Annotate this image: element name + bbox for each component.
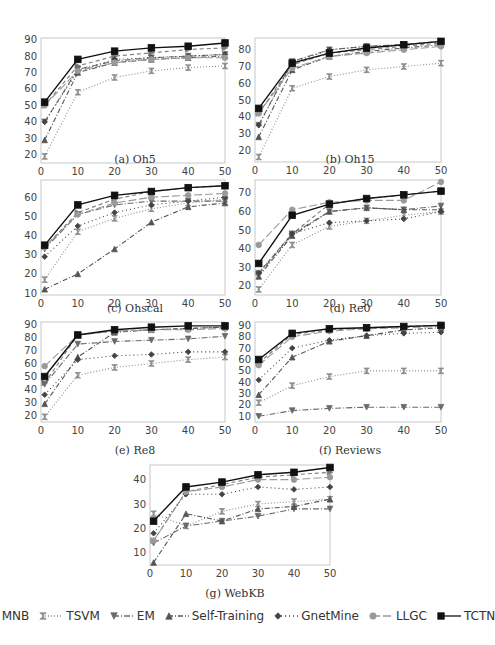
caption-oh5: (a) Oh5 [40, 153, 230, 166]
y-tick-label: 70 [24, 345, 37, 356]
x-tick-label: 40 [182, 166, 195, 177]
legend-label: GnetMine [301, 609, 359, 623]
x-tick-label: 0 [147, 568, 153, 579]
line-chart-svg: 1020304001020304050 [110, 465, 360, 590]
y-tick-label: 40 [133, 474, 146, 485]
line-chart-svg: 2030405060708001020304050 [233, 28, 469, 153]
line-chart-svg: 10203040506070809001020304050 [233, 322, 469, 447]
y-tick-label: 50 [238, 365, 251, 376]
legend-item-gnetmine: GnetMine [273, 609, 359, 623]
caption-ohscal: (c) Ohscal [40, 302, 230, 315]
x-tick-label: 20 [323, 425, 336, 436]
legend-label: EM [137, 609, 155, 623]
x-tick-label: 30 [252, 568, 265, 579]
y-tick-label: 70 [24, 67, 37, 78]
legend-item-self-training: Self-Training [164, 609, 264, 623]
x-tick-label: 10 [71, 166, 84, 177]
caption-re8: (e) Re8 [40, 444, 230, 457]
y-tick-label: 80 [238, 44, 251, 55]
y-tick-label: 50 [24, 100, 37, 111]
x-tick-label: 20 [108, 166, 121, 177]
x-tick-label: 40 [397, 165, 410, 176]
chart-panel-reviews: 10203040506070809001020304050 [233, 322, 469, 447]
caption-webkb: (g) WebKB [160, 587, 310, 600]
y-tick-label: 80 [24, 332, 37, 343]
y-tick-label: 40 [238, 243, 251, 254]
legend-item-mnb: MNB [0, 609, 29, 623]
x-tick-label: 0 [252, 165, 258, 176]
x-tick-label: 50 [435, 425, 448, 436]
y-tick-label: 50 [24, 371, 37, 382]
x-tick-label: 20 [323, 165, 336, 176]
legend-item-em: EM [109, 609, 155, 623]
y-tick-label: 20 [238, 399, 251, 410]
y-tick-label: 60 [238, 354, 251, 365]
x-tick-label: 10 [71, 425, 84, 436]
caption-oh15: (b) Oh15 [255, 153, 445, 166]
y-tick-label: 20 [238, 145, 251, 156]
y-tick-label: 50 [238, 225, 251, 236]
x-tick-label: 30 [145, 166, 158, 177]
line-chart-svg: 203040506070809001020304050 [0, 28, 230, 153]
y-tick-label: 70 [238, 343, 251, 354]
x-tick-label: 50 [219, 166, 232, 177]
chart-panel-oh15: 2030405060708001020304050 [233, 28, 469, 153]
x-tick-label: 40 [182, 425, 195, 436]
y-tick-label: 20 [24, 268, 37, 279]
y-tick-label: 80 [238, 331, 251, 342]
plot-area [255, 38, 441, 162]
triangle-up-marker-icon [164, 610, 190, 622]
x-tick-label: 30 [360, 425, 373, 436]
circle-marker-icon [368, 610, 394, 622]
y-tick-label: 60 [24, 83, 37, 94]
x-tick-label: 10 [286, 425, 299, 436]
hourglass-marker-icon [38, 610, 64, 622]
legend-label: LLGC [396, 609, 427, 623]
legend-label: MNB [2, 609, 30, 623]
y-tick-label: 50 [238, 95, 251, 106]
y-tick-label: 80 [24, 51, 37, 62]
y-tick-label: 20 [24, 410, 37, 421]
x-tick-label: 0 [38, 425, 44, 436]
legend-item-llgc: LLGC [368, 609, 427, 623]
y-tick-label: 20 [133, 523, 146, 534]
y-tick-label: 90 [24, 34, 37, 45]
y-tick-label: 30 [24, 249, 37, 260]
x-tick-label: 20 [108, 425, 121, 436]
y-tick-label: 10 [238, 411, 251, 422]
line-chart-svg: 20304050607001020304050 [233, 180, 469, 305]
y-tick-label: 70 [238, 187, 251, 198]
x-tick-label: 50 [435, 165, 448, 176]
y-tick-label: 60 [24, 358, 37, 369]
x-tick-label: 50 [219, 425, 232, 436]
x-tick-label: 30 [360, 165, 373, 176]
x-tick-label: 0 [252, 425, 258, 436]
chart-panel-ohscal: 10203040506001020304050 [0, 180, 230, 305]
chart-legend: MNBTSVMEMSelf-TrainingGnetMineLLGCTCTN [0, 606, 469, 626]
y-tick-label: 40 [24, 384, 37, 395]
plot-area [255, 180, 441, 295]
chart-panel-re8: 203040506070809001020304050 [0, 322, 230, 447]
y-tick-label: 40 [238, 377, 251, 388]
y-tick-label: 90 [24, 319, 37, 330]
x-tick-label: 10 [286, 165, 299, 176]
legend-label: Self-Training [192, 609, 264, 623]
plot-area [41, 38, 225, 163]
legend-label: TSVM [66, 609, 100, 623]
y-tick-label: 90 [238, 320, 251, 331]
chart-panel-webkb: 1020304001020304050 [110, 465, 360, 590]
y-tick-label: 30 [238, 128, 251, 139]
y-tick-label: 30 [24, 133, 37, 144]
legend-item-tsvm: TSVM [38, 609, 100, 623]
x-tick-label: 30 [145, 425, 158, 436]
y-tick-label: 10 [24, 288, 37, 299]
line-chart-svg: 203040506070809001020304050 [0, 322, 230, 447]
chart-panel-oh5: 203040506070809001020304050 [0, 28, 230, 153]
line-chart-svg: 10203040506001020304050 [0, 180, 230, 305]
y-tick-label: 20 [238, 280, 251, 291]
chart-panel-re0: 20304050607001020304050 [233, 180, 469, 305]
diamond-marker-icon [273, 610, 299, 622]
square-marker-icon [436, 610, 462, 622]
x-tick-label: 10 [180, 568, 193, 579]
y-tick-label: 70 [238, 61, 251, 72]
